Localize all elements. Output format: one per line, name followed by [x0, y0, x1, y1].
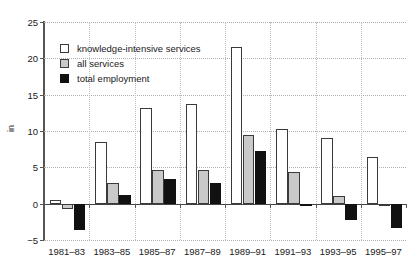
bar-total [300, 204, 312, 206]
bar-all [107, 183, 119, 204]
legend-label: knowledge-intensive services [77, 43, 201, 54]
bar-kis [95, 142, 107, 204]
bar-kis [321, 138, 333, 203]
x-axis-tick-label: 1991–93 [274, 246, 311, 257]
gridline [44, 240, 406, 241]
bar-total [210, 183, 222, 203]
x-axis-tick-label: 1987–89 [184, 246, 221, 257]
bar-all [152, 170, 164, 204]
bar-total [345, 204, 357, 220]
y-axis-tick [40, 58, 44, 59]
legend-swatch-kis [60, 44, 69, 53]
y-axis-tick [40, 167, 44, 168]
bar-kis [186, 104, 198, 204]
x-axis-tick [180, 204, 181, 208]
legend-label: all services [77, 58, 124, 69]
legend-swatch-total [60, 74, 69, 83]
x-axis-tick-label: 1985–87 [139, 246, 176, 257]
bar-total [164, 179, 176, 204]
y-axis-tick-label: 15 [27, 89, 38, 100]
x-axis-tick [135, 204, 136, 208]
bar-chart: in −505101520251981–831983–851985–871987… [0, 0, 419, 269]
legend-swatch-all [60, 59, 69, 68]
bar-all [379, 204, 391, 206]
y-axis-tick [40, 131, 44, 132]
bar-kis [276, 129, 288, 204]
x-axis-tick [361, 204, 362, 208]
bar-kis [50, 200, 62, 204]
y-axis-tick-label: −5 [27, 235, 38, 246]
x-axis-tick-label: 1989–91 [229, 246, 266, 257]
bar-all [333, 196, 345, 203]
x-axis-tick-label: 1981–83 [48, 246, 85, 257]
y-axis-tick [40, 95, 44, 96]
bar-total [119, 195, 131, 204]
bar-all [243, 135, 255, 203]
x-axis-tick [270, 204, 271, 208]
x-axis-tick [316, 204, 317, 208]
y-axis-tick-label: 20 [27, 53, 38, 64]
bar-kis [231, 47, 243, 204]
bar-total [391, 204, 403, 228]
x-axis-tick [44, 204, 45, 208]
bar-all [62, 204, 74, 209]
y-axis-tick [40, 240, 44, 241]
legend-label: total employment [77, 73, 149, 84]
y-axis-tick-label: 5 [33, 162, 38, 173]
bar-total [255, 151, 267, 203]
y-axis-tick [40, 22, 44, 23]
x-axis-tick [225, 204, 226, 208]
legend-item: all services [60, 56, 201, 71]
x-axis-tick-label: 1983–85 [93, 246, 130, 257]
bar-all [198, 170, 210, 203]
bar-kis [367, 157, 379, 204]
chart-legend: knowledge-intensive servicesall services… [60, 41, 201, 86]
y-axis-tick-label: 10 [27, 126, 38, 137]
x-axis-tick-label: 1995–97 [365, 246, 402, 257]
bar-all [288, 172, 300, 204]
legend-item: knowledge-intensive services [60, 41, 201, 56]
bar-kis [140, 108, 152, 203]
bar-total [74, 204, 86, 230]
y-axis-tick-label: 25 [27, 17, 38, 28]
x-axis-tick [406, 204, 407, 208]
x-axis-tick-label: 1993–95 [320, 246, 357, 257]
y-axis-tick-label: 0 [33, 198, 38, 209]
x-axis-tick [89, 204, 90, 208]
y-axis-label: in [6, 125, 16, 132]
legend-item: total employment [60, 71, 201, 86]
